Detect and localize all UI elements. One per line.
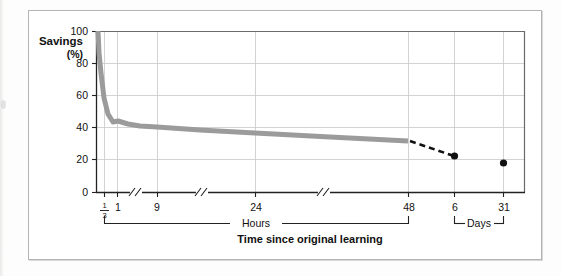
y-tick-label-60: 60	[76, 89, 88, 101]
data-point-31-days	[500, 159, 507, 166]
forgetting-curve-chart: 100 80 60 40 20 0 Savings (%) 1 3 1 9 24…	[0, 0, 561, 276]
x-tick-label-31d: 31	[498, 201, 510, 213]
y-axis-title-percent: (%)	[67, 48, 83, 60]
y-tick-marks	[92, 32, 96, 193]
fraction-numerator: 1	[102, 201, 106, 210]
y-tick-label-20: 20	[76, 153, 88, 165]
x-tick-label-9hr: 9	[154, 201, 160, 213]
y-axis-title-savings: Savings	[39, 35, 83, 47]
plot-area-background	[96, 31, 525, 192]
days-group-label: Days	[467, 217, 491, 229]
x-axis-title: Time since original learning	[237, 233, 382, 245]
data-point-6-days	[451, 152, 458, 159]
x-tick-label-6d: 6	[452, 201, 458, 213]
x-tick-label-1hr: 1	[115, 201, 121, 213]
y-tick-label-0: 0	[82, 186, 88, 198]
x-tick-label-24hr: 24	[250, 201, 262, 213]
hours-group-label: Hours	[242, 217, 270, 229]
figure-root: 100 80 60 40 20 0 Savings (%) 1 3 1 9 24…	[0, 0, 561, 276]
x-tick-label-48hr: 48	[403, 201, 415, 213]
y-tick-label-40: 40	[76, 121, 88, 133]
